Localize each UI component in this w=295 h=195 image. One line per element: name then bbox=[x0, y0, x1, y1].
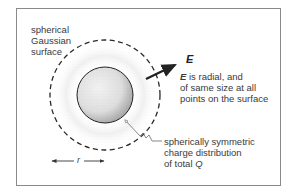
field-description: E is radial, and of same size at all poi… bbox=[180, 71, 268, 104]
gaussian-surface-label: spherical Gaussian surface bbox=[31, 24, 71, 57]
field-symbol: E bbox=[186, 53, 193, 65]
gauss-law-diagram: spherical Gaussian surface E E is radial… bbox=[0, 0, 295, 195]
charge-distribution-label: spherically symmetric charge distributio… bbox=[164, 136, 255, 169]
radius-symbol: r bbox=[77, 155, 80, 165]
